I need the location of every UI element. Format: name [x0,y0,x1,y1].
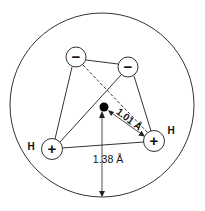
minus-sign-icon: − [72,48,81,65]
water-molecule-diagram: − − + + H H 1.38 Å 1.01 Å [0,0,205,211]
oxygen-nucleus [100,103,109,112]
hydrogen-label-left: H [27,141,34,152]
negative-charge-2: − [118,57,138,77]
plus-sign-icon: + [150,132,159,149]
oh-arrow-start [108,110,114,116]
hydrogen-label-right: H [167,125,174,136]
positive-charge-right: + [144,131,165,152]
minus-sign-icon: − [124,58,133,75]
radius-arrow-start [99,111,105,118]
plus-sign-icon: + [48,140,57,157]
oh-distance-label: 1.01 Å [114,105,145,133]
positive-charge-left: + [42,139,63,160]
negative-charge-1: − [66,47,86,67]
radius-label: 1.38 Å [93,153,123,165]
